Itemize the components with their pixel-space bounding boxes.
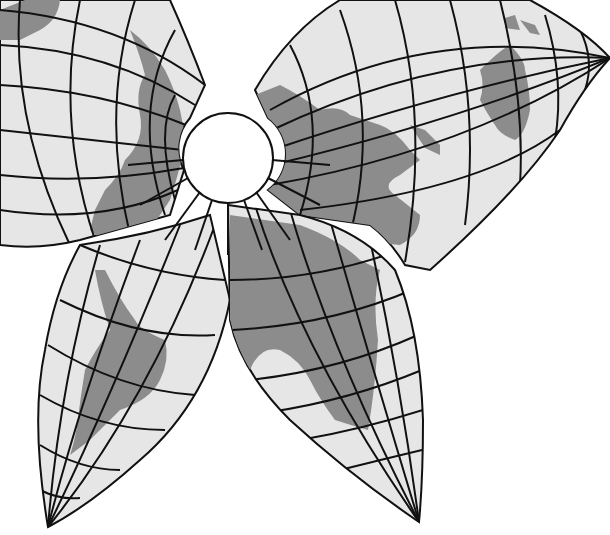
north-pole-hole	[183, 113, 273, 203]
south-america-lobe	[38, 215, 230, 527]
north-america-lobe	[0, 0, 205, 247]
butterfly-world-map	[0, 0, 610, 535]
africa-europe-lobe	[228, 205, 423, 522]
